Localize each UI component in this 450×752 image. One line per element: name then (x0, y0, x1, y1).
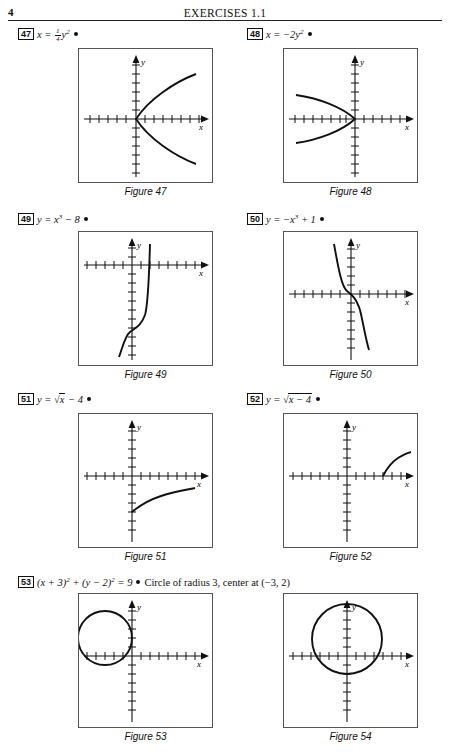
problem-number: 49 (18, 213, 34, 225)
problem-52: 52y = √x − 4 (247, 393, 324, 406)
figure-caption: Figure 49 (78, 369, 213, 380)
answer-bullet-icon (320, 217, 324, 221)
graph-50: y x (284, 232, 417, 365)
problem-equation: y = −x3 + 1 (266, 214, 316, 225)
figure-panel-52: y x Figure 52 (283, 413, 418, 568)
figure-frame: y x (78, 231, 213, 366)
figure-frame: y x (283, 231, 418, 366)
problem-51: 51y = √x − 4 (18, 393, 95, 406)
y-axis-label: y (351, 422, 356, 432)
figure-caption: Figure 53 (78, 731, 213, 742)
y-axis-label: y (136, 602, 141, 612)
x-axis-label: x (198, 122, 203, 132)
problem-number: 50 (247, 213, 263, 225)
graph-54: y x (284, 594, 417, 727)
figure-caption: Figure 50 (283, 369, 418, 380)
graph-49: y x (79, 232, 212, 365)
x-axis-label: x (404, 479, 409, 489)
problem-number: 48 (247, 28, 263, 40)
problem-equation: y = √x − 4 (266, 394, 312, 405)
y-axis-label: y (351, 602, 356, 612)
figure-panel-49: y x Figure 49 (78, 231, 213, 386)
y-axis-label: y (359, 57, 364, 67)
x-axis-label: x (196, 479, 201, 489)
page-title: EXERCISES 1.1 (0, 7, 450, 19)
figure-frame: y x (283, 413, 418, 548)
problem-50: 50y = −x3 + 1 (247, 211, 328, 226)
answer-bullet-icon (308, 32, 312, 36)
figure-caption: Figure 51 (78, 551, 213, 562)
problem-number: 51 (18, 393, 34, 405)
figure-panel-47: y x Figure 47 (78, 48, 213, 203)
x-axis-label: x (404, 297, 409, 307)
problem-47: 47x = 14y2 (18, 26, 82, 43)
problem-answer: Circle of radius 3, center at (−3, 2) (144, 577, 290, 588)
problem-equation: y = x3 − 8 (37, 214, 80, 225)
problem-equation: x = 14y2 (37, 29, 70, 40)
header-divider (8, 20, 442, 21)
figure-caption: Figure 52 (283, 551, 418, 562)
figure-caption: Figure 48 (283, 186, 418, 197)
problem-equation: y = √x − 4 (37, 394, 83, 405)
graph-47: y x (79, 49, 212, 182)
figure-panel-51: y x Figure 51 (78, 413, 213, 568)
figure-caption: Figure 54 (283, 731, 418, 742)
problem-number: 47 (18, 28, 34, 40)
problem-number: 52 (247, 393, 263, 405)
y-axis-label: y (355, 240, 360, 250)
problem-48: 48x = −2y2 (247, 26, 316, 41)
x-axis-label: x (404, 659, 409, 669)
graph-53: y x (79, 594, 212, 727)
y-axis-label: y (140, 57, 145, 67)
problem-number: 53 (18, 576, 34, 588)
figure-panel-50: y x Figure 50 (283, 231, 418, 386)
x-axis-label: x (198, 268, 203, 278)
answer-bullet-icon (136, 580, 140, 584)
figure-caption: Figure 47 (78, 186, 213, 197)
figure-frame: y x (78, 593, 213, 728)
answer-bullet-icon (87, 397, 91, 401)
problem-equation: (x + 3)2 + (y − 2)2 = 9 (37, 577, 132, 588)
graph-51: y x (79, 414, 212, 547)
y-axis-label: y (136, 240, 141, 250)
problem-49: 49y = x3 − 8 (18, 211, 92, 226)
figure-frame: y x (283, 593, 418, 728)
answer-bullet-icon (74, 32, 78, 36)
figure-panel-48: y x Figure 48 (283, 48, 418, 203)
answer-bullet-icon (316, 397, 320, 401)
x-axis-label: x (196, 659, 201, 669)
figure-frame: y x (78, 413, 213, 548)
figure-frame: y x (283, 48, 418, 183)
answer-bullet-icon (84, 217, 88, 221)
figure-panel-53: y x Figure 53 (78, 593, 213, 748)
textbook-page: 4 EXERCISES 1.1 47x = 14y2 48x = −2y2 49… (0, 0, 450, 752)
problem-53: 53(x + 3)2 + (y − 2)2 = 9Circle of radiu… (18, 574, 290, 589)
graph-52: y x (284, 414, 417, 547)
figure-frame: y x (78, 48, 213, 183)
y-axis-label: y (136, 422, 141, 432)
graph-48: y x (284, 49, 417, 182)
problem-equation: x = −2y2 (266, 29, 304, 40)
x-axis-label: x (404, 122, 409, 132)
figure-panel-54: y x Figure 54 (283, 593, 418, 748)
page-header: 4 EXERCISES 1.1 (0, 6, 450, 26)
